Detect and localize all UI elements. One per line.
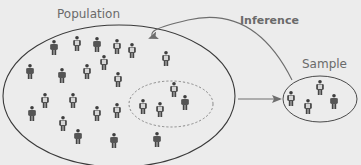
sample-label: Sample	[302, 57, 347, 71]
person-icon	[113, 39, 121, 54]
person-icon	[58, 68, 66, 83]
person-icon	[110, 133, 118, 148]
person-icon	[114, 72, 122, 87]
person-icon	[50, 40, 58, 55]
inference-label: Inference	[240, 14, 299, 27]
population-figures	[26, 36, 170, 148]
person-icon	[181, 95, 189, 110]
person-icon	[100, 55, 108, 70]
diagram-canvas	[0, 0, 361, 165]
person-icon	[93, 37, 101, 52]
person-icon	[128, 43, 136, 58]
sample-figures	[287, 80, 338, 114]
person-icon	[316, 80, 324, 95]
person-icon	[330, 94, 338, 109]
person-icon	[304, 99, 312, 114]
person-icon	[26, 64, 34, 79]
person-icon	[41, 93, 49, 108]
person-icon	[162, 51, 170, 66]
person-icon	[287, 91, 295, 106]
person-icon	[74, 129, 82, 144]
person-icon	[69, 93, 77, 108]
population-label: Population	[57, 7, 120, 21]
person-icon	[139, 99, 147, 114]
person-icon	[113, 103, 121, 118]
person-icon	[156, 102, 164, 117]
person-icon	[83, 64, 91, 79]
person-icon	[170, 82, 178, 97]
subset-figures	[139, 82, 189, 117]
inference-diagram: Population Inference Sample	[0, 0, 361, 165]
person-icon	[153, 132, 161, 147]
person-icon	[28, 106, 36, 121]
person-icon	[73, 36, 81, 51]
person-icon	[59, 116, 67, 131]
person-icon	[93, 106, 101, 121]
